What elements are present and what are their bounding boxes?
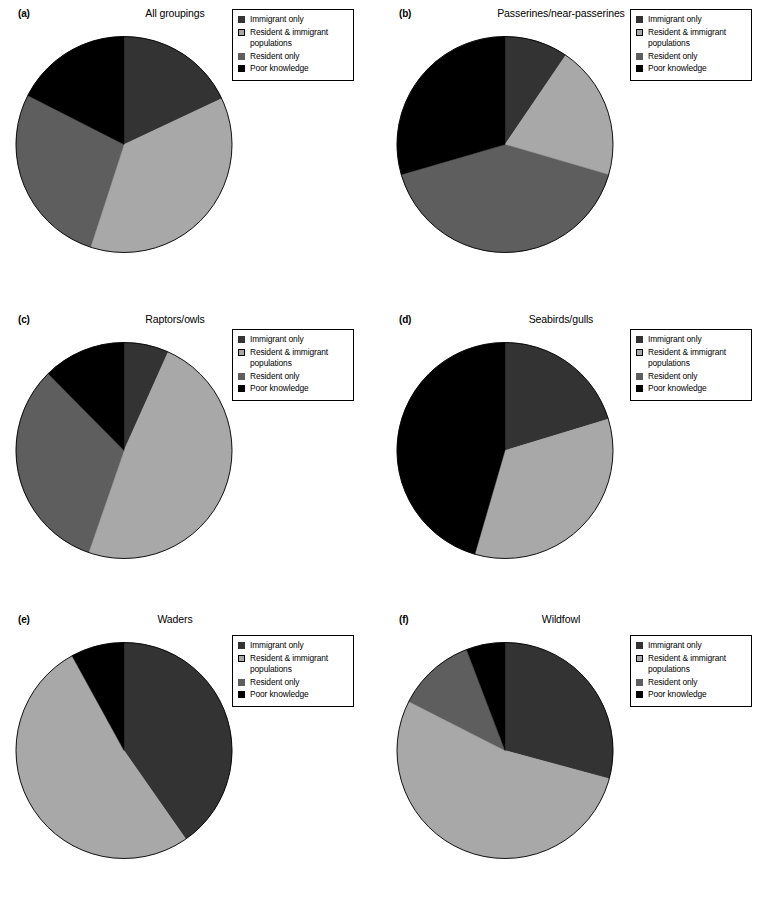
legend-label: Resident only bbox=[648, 51, 697, 63]
pie-chart-f bbox=[396, 639, 614, 862]
panel-title-e: Waders bbox=[60, 613, 290, 625]
panel-title-c: Raptors/owls bbox=[60, 313, 290, 325]
legend-item: Poor knowledge bbox=[238, 689, 347, 701]
legend-label: Immigrant only bbox=[250, 640, 304, 652]
legend-swatch-icon bbox=[636, 642, 643, 649]
legend-swatch-icon bbox=[636, 65, 643, 72]
legend-swatch-icon bbox=[238, 16, 245, 23]
legend-swatch-icon bbox=[238, 336, 245, 343]
legend-swatch-icon bbox=[636, 16, 643, 23]
panel-c: (c) Raptors/owls Immigrant onlyResident … bbox=[0, 306, 381, 606]
legend-f: Immigrant onlyResident & immigrant popul… bbox=[630, 635, 752, 707]
pie-chart-e bbox=[15, 639, 233, 862]
legend-item: Resident & immigrant populations bbox=[238, 27, 347, 50]
legend-label: Resident only bbox=[648, 371, 697, 383]
legend-item: Poor knowledge bbox=[636, 63, 745, 75]
legend-item: Resident & immigrant populations bbox=[238, 347, 347, 370]
panel-a: (a) All groupings Immigrant onlyResident… bbox=[0, 0, 381, 300]
legend-item: Resident & immigrant populations bbox=[636, 347, 745, 370]
legend-label: Resident & immigrant populations bbox=[250, 27, 328, 50]
legend-d: Immigrant onlyResident & immigrant popul… bbox=[630, 329, 752, 401]
legend-swatch-icon bbox=[238, 655, 245, 662]
legend-item: Immigrant only bbox=[238, 14, 347, 26]
pie-chart-a bbox=[15, 33, 233, 256]
legend-swatch-icon bbox=[238, 691, 245, 698]
legend-label: Resident & immigrant populations bbox=[250, 653, 328, 676]
legend-swatch-icon bbox=[238, 642, 245, 649]
legend-swatch-icon bbox=[636, 373, 643, 380]
legend-c: Immigrant onlyResident & immigrant popul… bbox=[232, 329, 354, 401]
legend-label: Poor knowledge bbox=[648, 63, 707, 75]
legend-item: Poor knowledge bbox=[636, 383, 745, 395]
pie-chart-c bbox=[15, 339, 233, 562]
legend-swatch-icon bbox=[636, 655, 643, 662]
legend-item: Resident & immigrant populations bbox=[636, 653, 745, 676]
panel-f: (f) Wildfowl Immigrant onlyResident & im… bbox=[381, 606, 762, 901]
legend-label: Immigrant only bbox=[648, 14, 702, 26]
legend-swatch-icon bbox=[238, 65, 245, 72]
legend-item: Resident only bbox=[636, 371, 745, 383]
legend-label: Resident & immigrant populations bbox=[250, 347, 328, 370]
legend-label: Poor knowledge bbox=[648, 689, 707, 701]
legend-label: Resident only bbox=[648, 677, 697, 689]
panel-label-c: (c) bbox=[18, 314, 30, 325]
legend-label: Poor knowledge bbox=[250, 689, 309, 701]
pie-chart-figure: (a) All groupings Immigrant onlyResident… bbox=[0, 0, 762, 901]
panel-title-f: Wildfowl bbox=[446, 613, 676, 625]
panel-label-f: (f) bbox=[399, 614, 408, 625]
legend-item: Resident only bbox=[636, 51, 745, 63]
legend-swatch-icon bbox=[636, 385, 643, 392]
pie-chart-d bbox=[396, 339, 614, 562]
legend-swatch-icon bbox=[238, 385, 245, 392]
legend-swatch-icon bbox=[238, 373, 245, 380]
legend-item: Poor knowledge bbox=[238, 63, 347, 75]
legend-label: Resident only bbox=[250, 51, 299, 63]
legend-item: Resident & immigrant populations bbox=[636, 27, 745, 50]
pie-chart-b bbox=[396, 33, 614, 256]
legend-label: Immigrant only bbox=[648, 334, 702, 346]
legend-item: Immigrant only bbox=[636, 640, 745, 652]
legend-e: Immigrant onlyResident & immigrant popul… bbox=[232, 635, 354, 707]
panel-label-d: (d) bbox=[399, 314, 411, 325]
legend-item: Resident only bbox=[238, 371, 347, 383]
legend-item: Immigrant only bbox=[636, 14, 745, 26]
legend-label: Poor knowledge bbox=[250, 383, 309, 395]
legend-label: Poor knowledge bbox=[648, 383, 707, 395]
legend-swatch-icon bbox=[636, 29, 643, 36]
legend-label: Immigrant only bbox=[250, 334, 304, 346]
legend-swatch-icon bbox=[238, 349, 245, 356]
panel-e: (e) Waders Immigrant onlyResident & immi… bbox=[0, 606, 381, 901]
legend-label: Resident & immigrant populations bbox=[648, 653, 726, 676]
panel-b: (b) Passerines/near-passerines Immigrant… bbox=[381, 0, 762, 300]
legend-swatch-icon bbox=[636, 691, 643, 698]
legend-b: Immigrant onlyResident & immigrant popul… bbox=[630, 9, 752, 81]
legend-item: Resident only bbox=[238, 51, 347, 63]
legend-label: Immigrant only bbox=[648, 640, 702, 652]
legend-swatch-icon bbox=[238, 679, 245, 686]
panel-label-b: (b) bbox=[399, 8, 411, 19]
legend-swatch-icon bbox=[636, 679, 643, 686]
legend-swatch-icon bbox=[636, 349, 643, 356]
legend-label: Immigrant only bbox=[250, 14, 304, 26]
legend-item: Resident only bbox=[636, 677, 745, 689]
legend-swatch-icon bbox=[238, 29, 245, 36]
legend-swatch-icon bbox=[636, 53, 643, 60]
legend-label: Resident & immigrant populations bbox=[648, 347, 726, 370]
panel-title-d: Seabirds/gulls bbox=[446, 313, 676, 325]
panel-d: (d) Seabirds/gulls Immigrant onlyResiden… bbox=[381, 306, 762, 606]
panel-label-a: (a) bbox=[18, 8, 30, 19]
legend-swatch-icon bbox=[636, 336, 643, 343]
legend-label: Poor knowledge bbox=[250, 63, 309, 75]
legend-a: Immigrant onlyResident & immigrant popul… bbox=[232, 9, 354, 81]
legend-item: Resident & immigrant populations bbox=[238, 653, 347, 676]
legend-label: Resident only bbox=[250, 677, 299, 689]
legend-label: Resident only bbox=[250, 371, 299, 383]
legend-item: Immigrant only bbox=[238, 640, 347, 652]
legend-item: Poor knowledge bbox=[238, 383, 347, 395]
legend-label: Resident & immigrant populations bbox=[648, 27, 726, 50]
legend-item: Resident only bbox=[238, 677, 347, 689]
legend-swatch-icon bbox=[238, 53, 245, 60]
legend-item: Immigrant only bbox=[238, 334, 347, 346]
legend-item: Immigrant only bbox=[636, 334, 745, 346]
panel-label-e: (e) bbox=[18, 614, 30, 625]
